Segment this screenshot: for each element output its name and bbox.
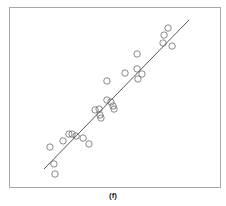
plot-frame	[10, 8, 221, 188]
scatter-chart	[0, 0, 226, 206]
figure-caption: (f)	[0, 191, 226, 200]
